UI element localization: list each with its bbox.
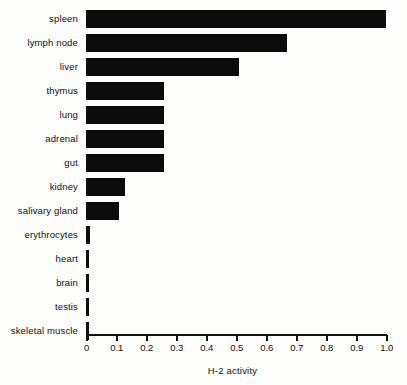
bar-row: adrenal [0, 130, 407, 148]
x-axis-tick [116, 335, 118, 341]
x-axis-tick-label: 1.0 [380, 343, 393, 353]
category-label: skeletal muscle [11, 326, 78, 336]
x-axis-tick [386, 335, 388, 341]
bar-row: heart [0, 250, 407, 268]
x-axis-tick [236, 335, 238, 341]
x-axis-origin-cap [86, 328, 88, 335]
bar-row: liver [0, 58, 407, 76]
bar-row: brain [0, 274, 407, 292]
x-axis-tick-label: 0.1 [110, 343, 123, 353]
x-axis-tick-label: 0.3 [170, 343, 183, 353]
bar-row: kidney [0, 178, 407, 196]
bar [86, 34, 287, 52]
bar-chart: spleenlymph nodeliverthymuslungadrenalgu… [0, 0, 407, 385]
x-axis-tick-label: 0.4 [200, 343, 213, 353]
x-axis-title: H-2 activity [0, 365, 407, 376]
x-axis-tick [266, 335, 268, 341]
bar-row: spleen [0, 10, 407, 28]
bar [86, 202, 119, 220]
bar [86, 10, 386, 28]
bar-row: salivary gland [0, 202, 407, 220]
x-axis-tick [146, 335, 148, 341]
bar [86, 178, 125, 196]
bar-row: thymus [0, 82, 407, 100]
bar-row: skeletal muscle [0, 322, 407, 340]
category-label: salivary gland [18, 206, 78, 216]
category-label: erythrocytes [24, 230, 78, 240]
bar [86, 130, 164, 148]
bar-row: lymph node [0, 34, 407, 52]
x-axis-tick-label: 0.9 [350, 343, 363, 353]
x-axis-tick-label: 0.6 [260, 343, 273, 353]
x-axis-tick [326, 335, 328, 341]
bar-row: testis [0, 298, 407, 316]
x-axis-tick-label: 0.8 [320, 343, 333, 353]
category-label: thymus [46, 86, 78, 96]
x-axis-tick [206, 335, 208, 341]
bar-row: gut [0, 154, 407, 172]
bar [86, 154, 164, 172]
x-axis-tick [296, 335, 298, 341]
category-label: testis [55, 302, 78, 312]
bar [86, 226, 90, 244]
bar [86, 106, 164, 124]
bar [86, 274, 89, 292]
bar-row: lung [0, 106, 407, 124]
category-label: adrenal [45, 134, 78, 144]
category-label: gut [64, 158, 78, 168]
x-axis-tick-label: 0.2 [140, 343, 153, 353]
category-label: lymph node [27, 38, 78, 48]
x-axis-tick-label: 0 [84, 343, 89, 353]
x-axis-tick [356, 335, 358, 341]
category-label: kidney [50, 182, 78, 192]
category-label: lung [59, 110, 78, 120]
x-axis-tick-label: 0.7 [290, 343, 303, 353]
bar-row: erythrocytes [0, 226, 407, 244]
category-label: liver [60, 62, 78, 72]
bar [86, 298, 89, 316]
category-label: heart [56, 254, 78, 264]
category-label: brain [56, 278, 78, 288]
x-axis-tick [86, 335, 88, 341]
bar [86, 250, 89, 268]
bar [86, 58, 239, 76]
bar [86, 82, 164, 100]
category-label: spleen [49, 14, 78, 24]
x-axis-tick [176, 335, 178, 341]
x-axis-title-text: H-2 activity [208, 365, 257, 376]
x-axis-tick-label: 0.5 [230, 343, 243, 353]
